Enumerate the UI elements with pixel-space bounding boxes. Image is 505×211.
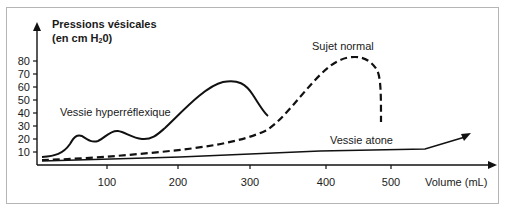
series-normal [42, 57, 381, 160]
y-axis-arrow-icon [33, 22, 41, 31]
series-hyperreflexic [42, 81, 268, 157]
chart-plot [0, 0, 505, 211]
atone-arrow-icon [461, 133, 471, 141]
series-atone [42, 137, 465, 161]
x-axis-arrow-icon [488, 161, 497, 169]
